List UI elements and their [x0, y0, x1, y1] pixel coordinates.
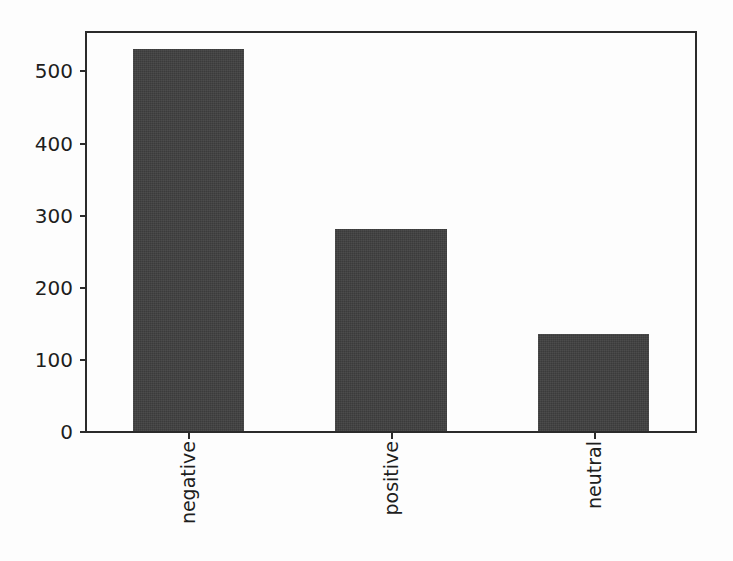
- y-axis-tick: 200: [80, 287, 87, 289]
- y-axis-tick: 0: [80, 431, 87, 433]
- y-axis-tick: 400: [80, 143, 87, 145]
- y-axis-tick: 300: [80, 215, 87, 217]
- y-axis-tick-label: 300: [35, 205, 73, 227]
- y-axis-tick-label: 400: [35, 133, 73, 155]
- plot-area: 0100200300400500negativepositiveneutral: [87, 33, 695, 431]
- y-axis-tick-label: 0: [60, 421, 73, 443]
- x-axis-tick-label: neutral: [584, 441, 604, 509]
- bar-chart-figure: 0100200300400500negativepositiveneutral: [0, 0, 733, 561]
- bar: [133, 49, 244, 431]
- x-axis-tick-label: positive: [381, 441, 401, 516]
- y-axis-tick-label: 100: [35, 349, 73, 371]
- x-axis-tick-label: negative: [178, 441, 198, 524]
- x-axis-tick: [188, 431, 190, 439]
- y-axis-tick-label: 500: [35, 60, 73, 82]
- y-axis-tick: 500: [80, 70, 87, 72]
- x-axis-tick: [594, 431, 596, 439]
- bar: [335, 229, 446, 431]
- y-axis-tick-label: 200: [35, 277, 73, 299]
- bar: [538, 334, 649, 431]
- y-axis-tick: 100: [80, 359, 87, 361]
- x-axis-tick: [391, 431, 393, 439]
- plot-frame: 0100200300400500negativepositiveneutral: [85, 31, 697, 433]
